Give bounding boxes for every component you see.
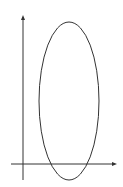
ellipse-curve bbox=[39, 22, 99, 180]
ellipse-diagram bbox=[0, 0, 123, 187]
x-axis-arrow-icon bbox=[112, 162, 117, 166]
y-axis-arrow-icon bbox=[21, 15, 25, 20]
